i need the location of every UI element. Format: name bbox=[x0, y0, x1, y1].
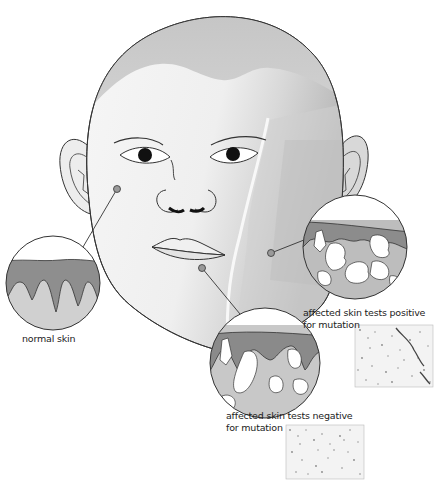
face-skin-diagram bbox=[0, 0, 439, 486]
label-positive-line2: for mutation bbox=[303, 319, 360, 331]
label-positive-line1: affected skin tests positive bbox=[303, 307, 425, 319]
micrograph-negative bbox=[286, 425, 364, 479]
micrograph-positive bbox=[355, 325, 433, 387]
label-negative-line2: for mutation bbox=[226, 422, 283, 434]
head bbox=[80, 0, 360, 352]
label-negative-line1: affected skin tests negative bbox=[226, 410, 353, 422]
label-normal-skin: normal skin bbox=[22, 333, 75, 345]
callout-normal-skin-circle bbox=[0, 236, 110, 332]
figure-caption-cutoff bbox=[2, 479, 438, 486]
